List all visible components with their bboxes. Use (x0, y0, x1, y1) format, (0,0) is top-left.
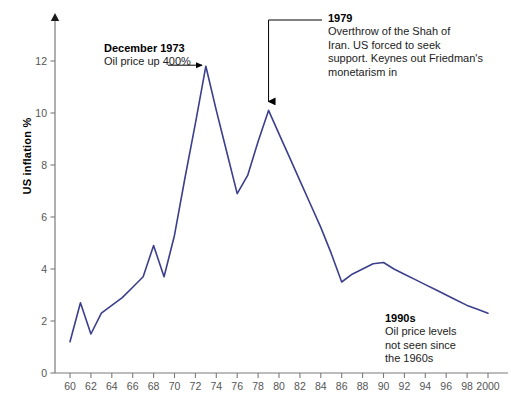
annotation-1979-line-2: Iran. US forced to seek (328, 39, 506, 53)
svg-text:4: 4 (41, 263, 47, 275)
annotation-1990s-line-1: Oil price levels (385, 325, 505, 339)
inflation-line-chart: US inflation % 0246810126062646668707274… (0, 0, 511, 412)
annotation-1973-heading: December 1973 (104, 42, 224, 55)
svg-text:66: 66 (127, 380, 139, 392)
svg-text:2000: 2000 (476, 380, 500, 392)
svg-text:96: 96 (440, 380, 452, 392)
annotation-1990s-line-2: not seen since (385, 339, 505, 353)
annotation-1990s-heading: 1990s (385, 312, 505, 325)
annotation-1979-line-1: Overthrow of the Shah of (328, 25, 506, 39)
svg-text:8: 8 (41, 159, 47, 171)
svg-text:80: 80 (273, 380, 285, 392)
annotation-1990s-line-3: the 1960s (385, 352, 505, 366)
annotation-1973-body: Oil price up 400% (104, 55, 224, 69)
svg-text:60: 60 (64, 380, 76, 392)
annotation-1979-line-3: support. Keynes out Friedman's (328, 52, 506, 66)
svg-text:88: 88 (357, 380, 369, 392)
svg-text:90: 90 (378, 380, 390, 392)
svg-text:92: 92 (399, 380, 411, 392)
svg-text:98: 98 (461, 380, 473, 392)
svg-text:94: 94 (419, 380, 431, 392)
svg-text:76: 76 (231, 380, 243, 392)
svg-text:74: 74 (210, 380, 222, 392)
svg-text:10: 10 (35, 107, 47, 119)
annotation-1979-heading: 1979 (328, 12, 506, 25)
svg-text:72: 72 (190, 380, 202, 392)
svg-text:6: 6 (41, 211, 47, 223)
svg-text:12: 12 (35, 55, 47, 67)
svg-text:68: 68 (148, 380, 160, 392)
svg-text:70: 70 (169, 380, 181, 392)
svg-text:2: 2 (41, 315, 47, 327)
svg-text:0: 0 (41, 367, 47, 379)
chart-series (70, 66, 488, 342)
svg-text:62: 62 (85, 380, 97, 392)
annotation-1979: 1979 Overthrow of the Shah of Iran. US f… (328, 12, 506, 79)
annotation-1990s: 1990s Oil price levels not seen since th… (385, 312, 505, 366)
annotation-1979-line-4: monetarism in (328, 66, 506, 80)
svg-text:84: 84 (315, 380, 327, 392)
svg-text:64: 64 (106, 380, 118, 392)
svg-text:82: 82 (294, 380, 306, 392)
svg-text:86: 86 (336, 380, 348, 392)
svg-text:78: 78 (252, 380, 264, 392)
annotation-december-1973: December 1973 Oil price up 400% (104, 42, 224, 69)
